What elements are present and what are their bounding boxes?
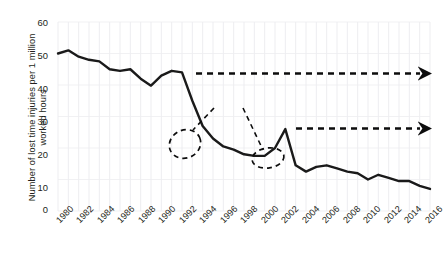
chart-svg bbox=[0, 0, 438, 261]
chart-container: Number of lost time injuries per 1 milli… bbox=[0, 0, 438, 261]
